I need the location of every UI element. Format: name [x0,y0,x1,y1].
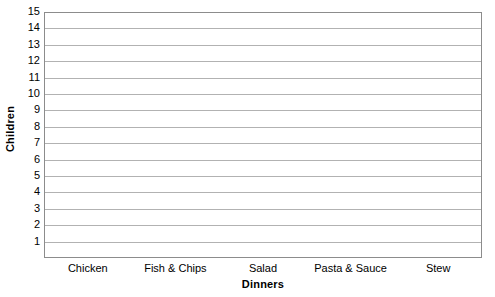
y-axis-tick-label: 14 [28,22,40,33]
bar-chart: Children 151413121110987654321 ChickenFi… [0,0,495,297]
x-axis-tick-labels: ChickenFish & ChipsSaladPasta & SauceSte… [44,261,482,277]
y-axis-title-label: Children [4,106,16,152]
y-axis-tick-label: 13 [28,39,40,50]
y-axis-tick-label: 2 [34,219,40,230]
y-axis-title: Children [0,0,20,258]
y-axis-tick-label: 3 [34,203,40,214]
y-axis-tick-label: 11 [29,72,40,83]
y-axis-tick-label: 8 [34,121,40,132]
x-axis-title: Dinners [44,278,482,291]
x-axis-tick-label: Pasta & Sauce [307,261,395,277]
y-axis-tick-labels: 151413121110987654321 [20,0,42,297]
x-axis-tick-label: Chicken [44,261,132,277]
y-axis-tick-label: 1 [34,236,40,247]
y-axis-tick-label: 10 [28,88,40,99]
y-axis-tick-label: 6 [34,154,40,165]
y-axis-tick-label: 7 [34,137,40,148]
y-axis-tick-label: 5 [34,170,40,181]
x-axis-title-label: Dinners [242,278,284,290]
bars-layer [45,13,481,257]
plot-area [44,12,482,258]
y-axis-tick-label: 9 [34,104,40,115]
y-axis-tick-label: 12 [28,55,40,66]
x-axis-tick-label: Stew [394,261,482,277]
y-axis-tick-label: 15 [28,6,40,17]
x-axis-tick-label: Fish & Chips [132,261,220,277]
y-axis-tick-label: 4 [34,186,40,197]
x-axis-tick-label: Salad [219,261,307,277]
